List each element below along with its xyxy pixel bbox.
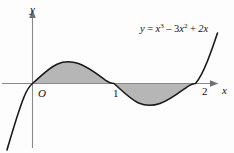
origin-label: O <box>38 88 46 99</box>
x-axis-label: x <box>222 85 227 96</box>
graph-figure: y x O 1 2 y=x3–3x2+2x <box>0 0 234 153</box>
equation-op2: + <box>190 23 196 34</box>
equation-term2-exponent: 2 <box>184 22 188 30</box>
equation-op1: – <box>166 23 171 34</box>
x-axis-arrowhead-icon <box>210 80 218 86</box>
equation-term3: 2x <box>198 23 208 34</box>
x-tick-label-2: 2 <box>202 86 208 97</box>
x-tick-label-1: 1 <box>113 88 119 99</box>
y-axis-label: y <box>30 4 35 15</box>
equation-lhs: y <box>140 23 145 34</box>
equation-term1-exponent: 3 <box>160 22 164 30</box>
equation-equals: = <box>147 23 153 34</box>
equation-annotation: y=x3–3x2+2x <box>140 24 208 35</box>
